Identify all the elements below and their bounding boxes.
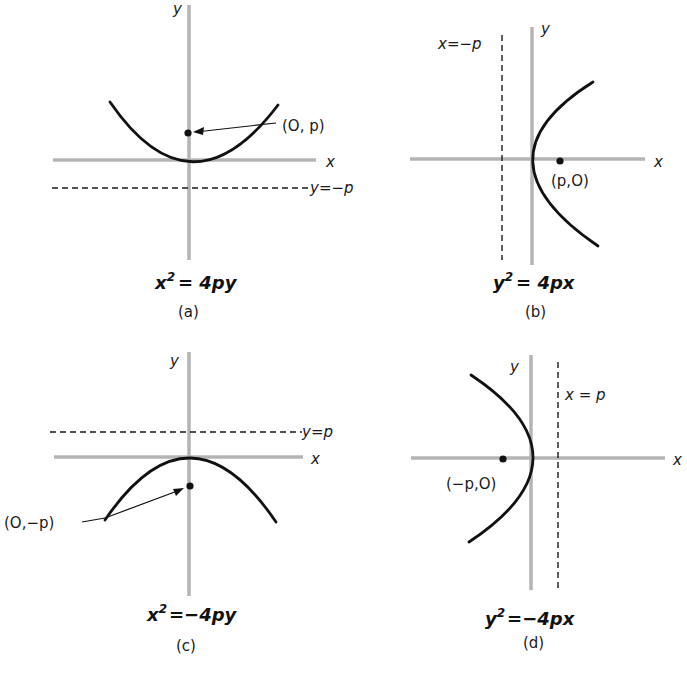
focus-leader <box>82 518 105 522</box>
focus-label: (O,−p) <box>4 514 54 532</box>
equation: y2= 4px <box>493 270 576 293</box>
focus-label: (p,O) <box>551 172 589 190</box>
focus-label: (O, p) <box>282 117 325 135</box>
x-axis-label: x <box>653 153 663 171</box>
caption: (b) <box>525 303 546 321</box>
y-axis-label: y <box>509 358 520 376</box>
focus-point <box>184 129 191 136</box>
y-axis-label: y <box>172 0 183 18</box>
directrix-label: x=−p <box>437 35 482 53</box>
equation: y2=−4px <box>485 606 576 629</box>
panel-d: x y x = p (−p,O) y2=−4px (d) <box>411 355 682 652</box>
equation: x2= 4py <box>154 270 238 293</box>
x-axis-label: x <box>325 153 335 171</box>
focus-label: (−p,O) <box>446 475 496 493</box>
caption: (c) <box>176 637 196 655</box>
caption: (a) <box>178 303 199 321</box>
caption: (d) <box>523 634 544 652</box>
panel-a: x y y=−p (O, p) x2= 4py (a) <box>52 0 354 321</box>
x-axis-label: x <box>672 451 682 469</box>
focus-arrow <box>196 123 276 132</box>
y-axis-label: y <box>169 352 180 370</box>
directrix-label: y=p <box>301 423 333 441</box>
parabola-figure: x y y=−p (O, p) x2= 4py (a) x y x=−p (p,… <box>0 0 687 673</box>
panel-b: x y x=−p (p,O) y2= 4px (b) <box>410 20 663 321</box>
focus-point <box>186 482 193 489</box>
directrix-label: x = p <box>564 386 606 404</box>
parabola-curve <box>533 82 598 246</box>
arrowhead-icon <box>193 127 204 135</box>
arrowhead-icon <box>173 488 184 496</box>
focus-point <box>556 157 563 164</box>
equation: x2=−4py <box>146 602 238 625</box>
x-axis-label: x <box>310 450 320 468</box>
directrix-label: y=−p <box>309 179 354 197</box>
focus-point <box>499 455 506 462</box>
y-axis-label: y <box>540 20 551 38</box>
panel-c: x y y=p (O,−p) x2=−4py (c) <box>4 352 333 655</box>
